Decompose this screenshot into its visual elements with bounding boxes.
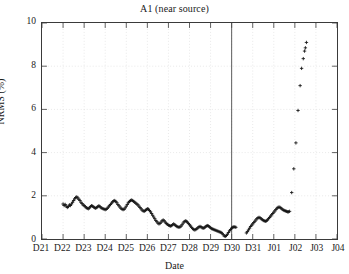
- data-markers: [42, 23, 337, 239]
- y-tick-label: 6: [10, 104, 36, 114]
- y-tick-label: 4: [10, 148, 36, 158]
- x-axis-label: Date: [0, 260, 349, 271]
- chart-figure: A1 (near source) NRMS (%) 0246810 D21D22…: [0, 0, 349, 274]
- plot-area: [41, 22, 338, 240]
- x-tick-label: J04: [323, 244, 349, 254]
- y-tick-label: 10: [10, 17, 36, 27]
- y-tick-label: 8: [10, 61, 36, 71]
- y-tick-label: 2: [10, 191, 36, 201]
